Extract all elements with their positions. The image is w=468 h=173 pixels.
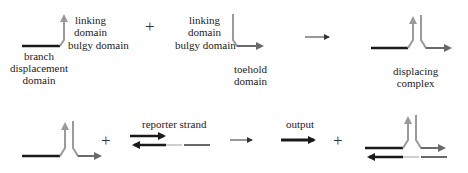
plus-sign-3: + — [333, 132, 343, 149]
strand-1 — [22, 16, 64, 46]
label-line: domain — [74, 26, 107, 38]
reporter-strand-label: reporter strand — [142, 118, 206, 130]
plus-sign-1: + — [145, 18, 155, 35]
linking-domain-label-1: linking domain — [74, 14, 107, 38]
linking-domain-label-2: linking domain — [188, 14, 221, 38]
displacing-complex — [371, 15, 450, 48]
strand-2 — [233, 14, 262, 46]
toehold-domain-label: toehold domain — [234, 63, 267, 87]
label-line: toehold — [234, 63, 267, 75]
branch-displacement-domain-label: branch displacement domain — [10, 50, 68, 86]
label-line: domain — [234, 75, 267, 87]
output-label: output — [286, 118, 314, 130]
label-line: linking — [74, 14, 107, 26]
label-line: domain — [10, 74, 68, 86]
plus-sign-2: + — [101, 132, 111, 149]
label-line: displacing — [393, 65, 438, 77]
label-line: branch — [10, 50, 68, 62]
label-line: displacement — [10, 62, 68, 74]
displacing-complex-reactant — [22, 121, 100, 156]
displacing-complex-label: displacing complex — [393, 65, 438, 89]
product-complex — [365, 115, 447, 157]
reporter-strand — [130, 136, 210, 145]
label-line: domain — [188, 26, 221, 38]
bulgy-domain-label-1: bulgy domain — [68, 39, 129, 51]
label-line: complex — [393, 77, 438, 89]
bulgy-domain-label-2: bulgy domain — [175, 39, 236, 51]
label-line: linking — [188, 14, 221, 26]
